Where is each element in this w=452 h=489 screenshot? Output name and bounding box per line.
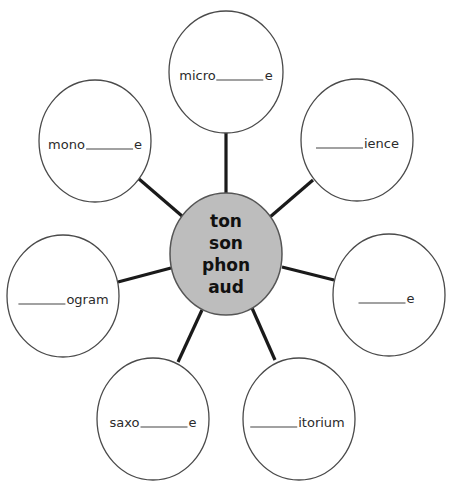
word-suffix: e (407, 292, 415, 305)
node-label-top: micro e (179, 69, 272, 82)
connector-lower-left (178, 310, 202, 362)
fill-in-blank[interactable] (86, 148, 133, 150)
word-suffix: ogram (66, 293, 108, 306)
word-suffix: e (265, 69, 273, 82)
connector-left (118, 268, 171, 282)
fill-in-blank[interactable] (141, 426, 188, 428)
word-suffix: itorium (298, 416, 345, 429)
connector-upper-left (139, 179, 182, 216)
word-suffix: e (189, 416, 197, 429)
node-label-upper-right: ience (315, 137, 399, 150)
word-prefix: mono (48, 138, 85, 151)
node-label-lower-right: itorium (249, 416, 345, 429)
root-word: ton (202, 210, 250, 232)
word-prefix: saxo (110, 416, 140, 429)
root-word: aud (202, 276, 250, 298)
word-prefix: micro (179, 69, 215, 82)
center-roots: ton son phon aud (202, 210, 250, 298)
word-suffix: e (134, 138, 142, 151)
word-suffix: ience (364, 137, 399, 150)
fill-in-blank[interactable] (217, 79, 264, 81)
root-word: son (202, 232, 250, 254)
connector-right (282, 267, 334, 280)
connector-upper-right (270, 180, 313, 217)
root-word: phon (202, 254, 250, 276)
fill-in-blank[interactable] (250, 426, 297, 428)
fill-in-blank[interactable] (359, 302, 406, 304)
fill-in-blank[interactable] (18, 303, 65, 305)
node-label-lower-left: saxo e (110, 416, 197, 429)
fill-in-blank[interactable] (316, 147, 363, 149)
node-label-right: e (358, 292, 415, 305)
connector-lower-right (252, 308, 275, 360)
node-label-left: ogram (17, 293, 108, 306)
node-label-upper-left: mono e (48, 138, 142, 151)
